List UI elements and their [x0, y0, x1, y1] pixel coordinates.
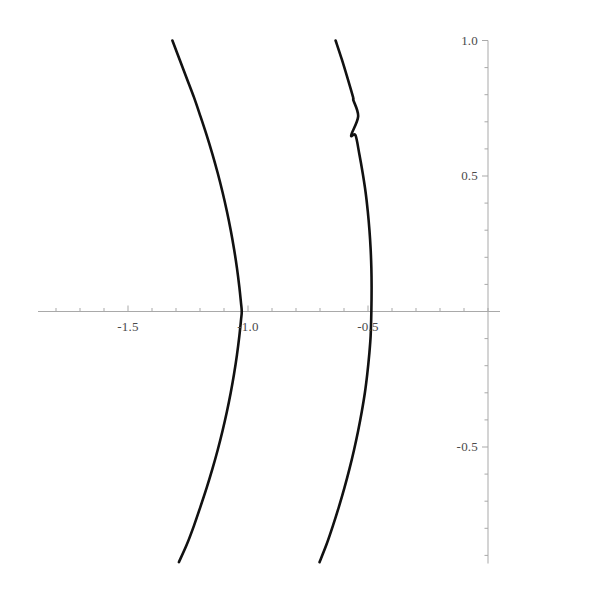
- y-tick-label: -0.5: [457, 439, 478, 455]
- y-axis-ticks: [482, 41, 488, 556]
- x-axis-group: [38, 306, 500, 312]
- x-tick-label: -1.5: [117, 319, 138, 335]
- curve-left-branch: [172, 41, 241, 563]
- curve-right-branch: [320, 41, 372, 563]
- y-tick-label: 1.0: [461, 33, 478, 49]
- y-tick-label: 0.5: [461, 168, 478, 184]
- curve-group: [172, 41, 371, 563]
- x-tick-label: -0.5: [357, 319, 378, 335]
- x-axis-ticks: [56, 306, 488, 312]
- x-tick-label: -1.0: [237, 319, 258, 335]
- y-axis-group: [482, 41, 488, 564]
- plot-canvas: -1.5-1.0-0.5 1.00.5-0.5: [0, 0, 595, 595]
- plot-svg: [0, 0, 595, 595]
